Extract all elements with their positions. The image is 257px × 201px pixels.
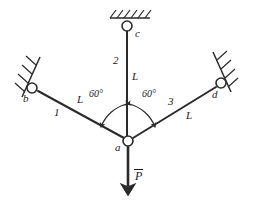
ceiling-support-c (110, 10, 151, 18)
pin-joint-c (122, 21, 132, 31)
pin-joint-d (216, 78, 226, 88)
node-label-d: d (212, 89, 218, 100)
diagram-canvas (0, 0, 257, 201)
member-label-3: 3 (168, 96, 174, 107)
load-label: P (135, 169, 142, 182)
angle-label-left: 60° (89, 89, 103, 99)
ceiling-hatching (110, 10, 151, 18)
angle-label-right: 60° (142, 89, 156, 99)
pin-joint-a (123, 136, 133, 146)
load-symbol: P (135, 169, 142, 182)
angle-arc-left (101, 104, 127, 127)
member-length-2: L (132, 71, 138, 82)
node-label-b: b (23, 93, 29, 104)
member-label-1: 1 (54, 107, 60, 118)
angle-arc-right (129, 104, 155, 127)
node-label-a: a (115, 142, 121, 153)
truss-diagram: b c d a 1 L 2 L 3 L 60° 60° P (0, 0, 257, 201)
node-label-c: c (135, 28, 140, 39)
member-length-3: L (186, 110, 192, 121)
member-label-2: 2 (113, 55, 119, 66)
member-length-1: L (77, 94, 83, 105)
